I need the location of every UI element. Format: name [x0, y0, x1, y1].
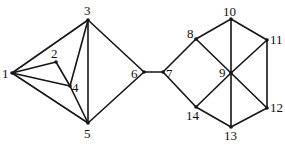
node-1 [10, 71, 14, 75]
node-label-14: 14 [186, 108, 200, 123]
graph-diagram: 1234567891011121314 [0, 0, 285, 145]
node-label-3: 3 [84, 3, 91, 18]
node-11 [265, 38, 269, 42]
node-7 [161, 70, 165, 74]
edge-2-4 [56, 62, 70, 86]
node-5 [86, 121, 90, 125]
edge-8-9 [196, 39, 231, 73]
node-6 [142, 70, 146, 74]
node-3 [86, 18, 90, 22]
node-label-8: 8 [187, 26, 194, 41]
edge-1-3 [12, 20, 88, 73]
edge-9-14 [196, 73, 231, 107]
node-9 [229, 71, 233, 75]
node-label-11: 11 [270, 32, 283, 47]
node-layer [10, 17, 269, 129]
edge-10-11 [231, 19, 267, 40]
node-label-5: 5 [84, 126, 91, 141]
node-label-1: 1 [2, 66, 9, 81]
node-label-10: 10 [223, 4, 236, 19]
node-label-13: 13 [224, 128, 237, 143]
edge-13-14 [196, 107, 231, 127]
node-8 [194, 37, 198, 41]
graph-canvas: 1234567891011121314 [0, 0, 285, 145]
edge-3-6 [88, 20, 144, 72]
edge-12-13 [231, 108, 267, 127]
edge-9-12 [231, 73, 267, 108]
node-label-12: 12 [270, 100, 283, 115]
node-label-2: 2 [51, 46, 58, 61]
node-12 [265, 106, 269, 110]
edge-8-10 [196, 19, 231, 39]
edge-11-9 [231, 40, 267, 73]
node-label-7: 7 [166, 66, 173, 81]
node-label-6: 6 [131, 66, 138, 81]
edge-layer [12, 19, 267, 127]
node-label-9: 9 [219, 65, 226, 80]
node-label-4: 4 [72, 80, 79, 95]
